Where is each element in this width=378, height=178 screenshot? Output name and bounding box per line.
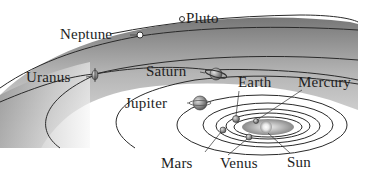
saturn-label: Saturn [146,64,186,79]
uranus-label: Uranus [26,70,71,85]
jupiter-label: Jupiter [125,96,167,111]
sun-label: Sun [287,155,311,170]
venus-label: Venus [220,156,258,171]
pluto-label: Pluto [186,11,219,26]
earth-label: Earth [238,75,271,90]
neptune-label: Neptune [60,27,112,42]
pluto-icon [180,17,185,22]
earth-icon [233,116,240,123]
neptune-icon [137,32,143,38]
sun-icon [260,121,272,133]
mars-label: Mars [161,156,193,171]
mercury-label: Mercury [298,75,351,90]
